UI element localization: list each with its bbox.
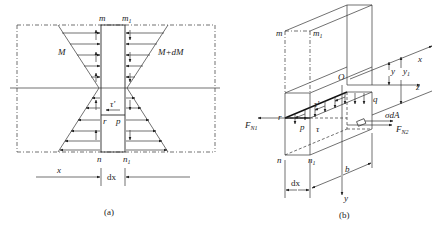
label-y: y <box>390 66 395 76</box>
element-strip <box>101 25 125 152</box>
caption-b: (b) <box>339 210 350 220</box>
figure-a: m m1 M M+dM τ' r p n n1 x dx (a) <box>10 13 220 217</box>
label-dx-b: dx <box>291 178 301 188</box>
label-tau-prime: τ' <box>110 99 116 109</box>
label-m1-b: m1 <box>313 28 323 39</box>
label-m: m <box>99 13 106 23</box>
q-level-line <box>372 91 432 115</box>
label-p-b: p <box>299 122 305 132</box>
label-b: b <box>345 164 350 174</box>
shear-stress-arrows-b <box>295 93 364 124</box>
label-r: r <box>103 116 107 126</box>
label-y-axis: y <box>343 193 348 203</box>
label-p: p <box>115 116 121 126</box>
label-q: q <box>373 94 378 104</box>
rp-plane-top-right <box>310 92 372 118</box>
beam-shear-stress-diagram: m m1 M M+dM τ' r p n n1 x dx (a) <box>0 0 432 231</box>
label-M-plus-dM: M+dM <box>157 47 184 57</box>
label-n1: n1 <box>123 154 131 165</box>
prism-bottom-right <box>310 129 372 155</box>
label-FN2: FN2 <box>395 124 409 135</box>
left-stress-arrows <box>60 33 100 150</box>
label-n1-b: n1 <box>308 155 316 166</box>
label-n-b: n <box>277 155 282 165</box>
label-x: x <box>56 165 61 175</box>
label-O: O <box>338 72 345 82</box>
label-dx: dx <box>107 172 117 182</box>
b-arrow-left <box>312 176 341 188</box>
label-x-axis: x <box>417 54 422 64</box>
label-r-b: r <box>278 112 282 122</box>
figure-b: m m1 O x z y y y1 q τ' τ r p FN1 FN2 σdA… <box>244 5 432 220</box>
label-sigma-dA: σdA <box>385 110 400 120</box>
label-z-axis: z <box>415 82 420 92</box>
caption-a: (a) <box>104 207 114 217</box>
label-m-b: m <box>276 28 283 38</box>
label-n: n <box>97 154 102 164</box>
label-m1: m1 <box>122 13 132 24</box>
label-FN1: FN1 <box>244 120 258 131</box>
label-tau-b: τ <box>316 124 320 134</box>
label-M: M <box>57 47 66 57</box>
label-y1: y1 <box>402 66 410 77</box>
